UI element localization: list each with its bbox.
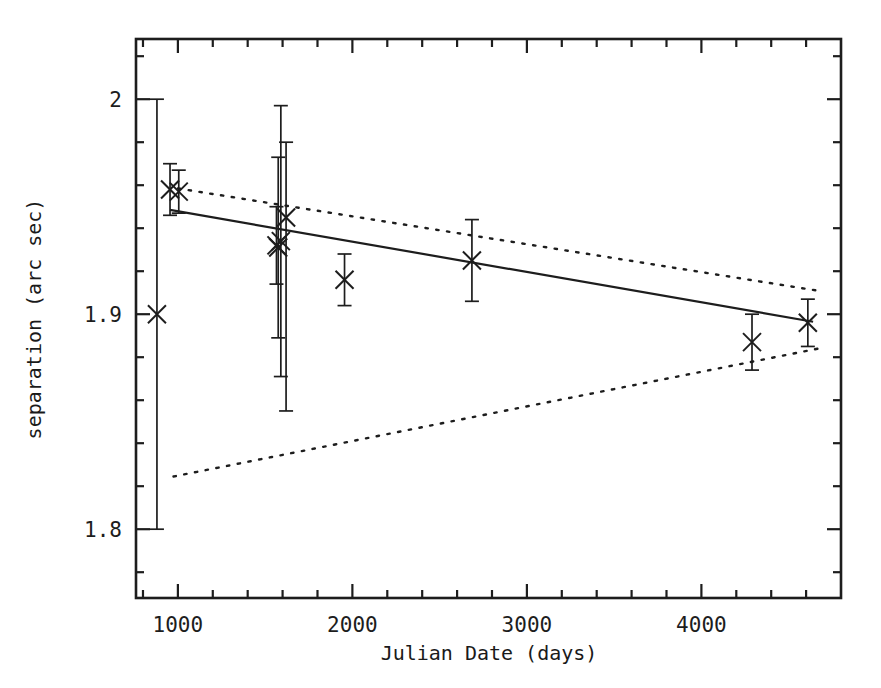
scatter-plot: 1000200030004000 21.91.8 Julian Date (da… — [0, 0, 881, 688]
y-tick-label: 1.8 — [84, 518, 122, 542]
data-markers — [148, 181, 817, 352]
y-tick-label: 2 — [109, 88, 122, 112]
x-axis-title: Julian Date (days) — [381, 641, 598, 665]
y-tick-labels: 21.91.8 — [84, 88, 122, 542]
regression-fit-line — [170, 210, 813, 322]
x-tick-labels: 1000200030004000 — [153, 613, 727, 637]
figure-canvas: 1000200030004000 21.91.8 Julian Date (da… — [0, 0, 881, 688]
y-axis-title: separation (arc sec) — [22, 199, 46, 440]
x-axis-ticks — [143, 39, 806, 598]
x-tick-label: 4000 — [676, 613, 727, 637]
x-tick-label: 1000 — [153, 613, 204, 637]
x-tick-label: 3000 — [502, 613, 553, 637]
y-tick-label: 1.9 — [84, 303, 122, 327]
y-axis-ticks — [136, 56, 841, 572]
upper-confidence-band — [178, 188, 824, 291]
lower-confidence-band — [174, 348, 824, 477]
fit-line — [170, 210, 813, 322]
error-bars — [150, 99, 815, 529]
confidence-bands — [174, 188, 824, 476]
x-tick-label: 2000 — [327, 613, 378, 637]
plot-frame — [136, 39, 841, 598]
